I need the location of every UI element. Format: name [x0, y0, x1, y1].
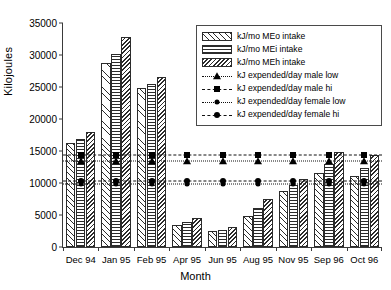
x-axis-tick-label: Sep 96: [314, 254, 344, 265]
reference-marker-square: [290, 152, 296, 158]
x-axis-tick-mark: [311, 247, 312, 251]
bar-diagonal-dense: [263, 199, 273, 247]
x-axis-tick-mark: [134, 247, 135, 251]
y-axis-tick-mark: [59, 151, 63, 152]
y-axis-tick-mark: [59, 183, 63, 184]
x-axis-tick-label: Jun 95: [208, 254, 237, 265]
x-axis-tick-mark: [347, 247, 348, 251]
reference-marker-circle: [220, 178, 226, 184]
x-axis-tick-mark: [169, 247, 170, 251]
y-axis-tick-mark: [59, 215, 63, 216]
legend-swatch-circle: [202, 110, 232, 119]
y-axis-tick-label: 10000: [29, 178, 63, 189]
y-axis-tick-mark: [59, 119, 63, 120]
bar-diagonal-dense: [370, 155, 380, 247]
x-axis-title: Month: [0, 270, 391, 282]
legend-swatch-horizontal-lines: [202, 45, 232, 54]
reference-marker-circle: [290, 178, 296, 184]
reference-marker-square: [255, 152, 261, 158]
legend-swatch-small-circle: [202, 97, 232, 106]
bar-diagonal-dense: [121, 37, 131, 247]
reference-marker-circle: [255, 178, 261, 184]
reference-marker-circle: [113, 178, 119, 184]
legend-swatch-diagonal-sparse: [202, 32, 232, 41]
chart-legend: kJ/mo MEo intakekJ/mo MEi intakekJ/mo ME…: [196, 25, 382, 126]
bar-diagonal-dense: [228, 227, 238, 247]
reference-marker-square: [184, 152, 190, 158]
y-axis-tick-mark: [59, 23, 63, 24]
legend-label: kJ expended/day male hi: [237, 84, 332, 93]
x-axis-tick-label: Aug 95: [243, 254, 273, 265]
x-axis-tick-label: Oct 96: [350, 254, 378, 265]
legend-item: kJ expended/day male low: [202, 69, 376, 82]
bar-diagonal-sparse: [279, 191, 289, 247]
legend-item: kJ expended/day male hi: [202, 82, 376, 95]
legend-item: kJ expended/day female low: [202, 95, 376, 108]
x-axis-tick-mark: [276, 247, 277, 251]
bar-diagonal-dense: [157, 77, 167, 247]
reference-marker-square: [78, 152, 84, 158]
legend-item: kJ/mo MEo intake: [202, 30, 376, 43]
bar-diagonal-sparse: [137, 88, 147, 247]
x-axis-tick-mark: [205, 247, 206, 251]
bar-diagonal-dense: [192, 218, 202, 247]
y-axis-tick-label: 25000: [29, 82, 63, 93]
reference-marker-circle: [326, 178, 332, 184]
legend-swatch-triangle: [202, 71, 232, 80]
legend-item: kJ/mo MEi intake: [202, 43, 376, 56]
y-axis-tick-label: 30000: [29, 50, 63, 61]
x-axis-tick-mark: [63, 247, 64, 251]
x-axis-tick-mark: [381, 247, 382, 251]
x-axis-tick-mark: [98, 247, 99, 251]
bar-horizontal-lines: [147, 84, 157, 247]
reference-marker-square: [149, 152, 155, 158]
reference-marker-circle: [149, 178, 155, 184]
y-axis-tick-label: 15000: [29, 146, 63, 157]
legend-label: kJ expended/day male low: [237, 71, 338, 80]
x-axis-tick-label: Feb 95: [137, 254, 167, 265]
bar-horizontal-lines: [182, 222, 192, 247]
legend-item: kJ expended/day female hi: [202, 108, 376, 121]
bar-horizontal-lines: [324, 164, 334, 247]
legend-label: kJ/mo MEh intake: [237, 58, 305, 67]
reference-marker-square: [113, 152, 119, 158]
y-axis-title: Kilojoules: [2, 47, 14, 96]
bar-horizontal-lines: [111, 54, 121, 247]
chart-figure: Kilojoules 05000100001500020000250003000…: [0, 0, 391, 290]
legend-marker-circle: [214, 112, 220, 118]
bar-horizontal-lines: [289, 185, 299, 247]
x-axis-tick-mark: [240, 247, 241, 251]
reference-marker-square: [326, 152, 332, 158]
bar-diagonal-sparse: [66, 143, 76, 247]
x-axis-tick-label: Apr 95: [173, 254, 201, 265]
bar-horizontal-lines: [218, 230, 228, 247]
bar-diagonal-sparse: [172, 225, 182, 247]
reference-marker-circle: [361, 178, 367, 184]
reference-marker-square: [361, 152, 367, 158]
y-axis-tick-label: 35000: [29, 18, 63, 29]
legend-swatch-square: [202, 84, 232, 93]
bar-diagonal-sparse: [208, 231, 218, 247]
legend-marker-square: [214, 86, 220, 92]
legend-label: kJ/mo MEo intake: [237, 32, 305, 41]
x-axis-tick-label: Jan 95: [102, 254, 131, 265]
reference-marker-square: [220, 152, 226, 158]
bar-diagonal-dense: [86, 132, 96, 247]
y-axis-tick-mark: [59, 55, 63, 56]
legend-label: kJ/mo MEi intake: [237, 45, 302, 54]
bar-diagonal-dense: [299, 179, 309, 247]
x-axis-tick-label: Nov 95: [278, 254, 308, 265]
legend-label: kJ expended/day female low: [237, 97, 345, 106]
reference-marker-circle: [184, 178, 190, 184]
y-axis-tick-label: 20000: [29, 114, 63, 125]
x-axis-tick-label: Dec 94: [66, 254, 96, 265]
bar-diagonal-sparse: [243, 216, 253, 247]
bar-horizontal-lines: [253, 208, 263, 247]
legend-item: kJ/mo MEh intake: [202, 56, 376, 69]
legend-marker-small-circle: [215, 99, 220, 104]
legend-marker-triangle: [213, 72, 221, 79]
bar-diagonal-sparse: [350, 176, 360, 247]
y-axis-tick-mark: [59, 87, 63, 88]
reference-marker-circle: [78, 178, 84, 184]
legend-swatch-diagonal-dense: [202, 58, 232, 67]
